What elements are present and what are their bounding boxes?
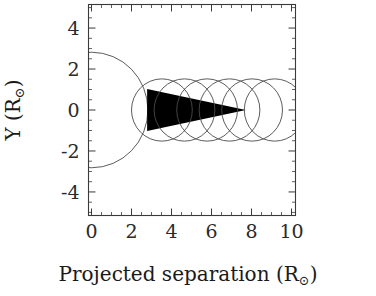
x-axis-title: Projected separation (R⊙) xyxy=(59,262,318,288)
y-tick-label: 0 xyxy=(67,99,79,121)
y-tick-label: 2 xyxy=(67,58,79,80)
sun-symbol-icon: ⊙ xyxy=(299,273,310,288)
plot-figure: 0246810420-2-4Projected separation (R⊙)Y… xyxy=(0,0,376,296)
y-tick-label: -2 xyxy=(61,140,80,162)
sun-symbol-icon-y: ⊙ xyxy=(12,87,27,98)
y-axis-title-main: Y (R xyxy=(1,97,25,141)
x-axis-title-close: ) xyxy=(310,262,318,286)
x-tick-label: 10 xyxy=(279,220,303,242)
shadow-cone-wedge xyxy=(147,89,246,131)
x-tick-label: 2 xyxy=(125,220,137,242)
y-axis-title-close: ) xyxy=(1,79,25,87)
y-tick-label: 4 xyxy=(67,17,79,39)
plot-content: 0246810420-2-4Projected separation (R⊙)Y… xyxy=(1,5,317,289)
x-tick-label: 4 xyxy=(165,220,177,242)
x-tick-label: 6 xyxy=(205,220,217,242)
figure-container: 0246810420-2-4Projected separation (R⊙)Y… xyxy=(0,0,376,296)
x-tick-label: 0 xyxy=(85,220,97,242)
y-tick-label: -4 xyxy=(61,181,80,203)
y-axis-title: Y (R⊙) xyxy=(1,79,27,141)
x-tick-label: 8 xyxy=(245,220,257,242)
x-axis-title-main: Projected separation (R xyxy=(59,262,300,286)
